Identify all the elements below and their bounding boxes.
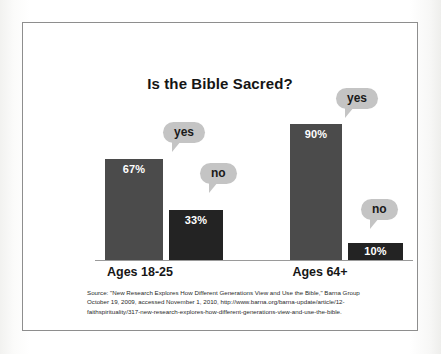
bubble-tail-icon: [370, 218, 379, 229]
bar-value-label: 90%: [290, 128, 342, 140]
bubble-tail-icon: [172, 141, 181, 152]
callout-bubble-yes-ages-64-plus: yes: [336, 88, 378, 109]
bar-ages-18-25-yes[interactable]: 67%: [105, 159, 163, 260]
category-label-ages-18-25: Ages 18-25: [81, 265, 199, 279]
bar-value-label: 10%: [348, 245, 403, 257]
source-line-2: October 19, 2009, accessed November 1, 2…: [87, 297, 407, 306]
callout-text: yes: [174, 125, 194, 139]
bubble-tail-icon: [209, 182, 218, 193]
bar-value-label: 67%: [105, 163, 163, 175]
callout-text: no: [372, 202, 387, 216]
source-line-1: Source: "New Research Explores How Diffe…: [87, 288, 407, 297]
bubble-tail-icon: [345, 107, 354, 118]
callout-bubble-yes-ages-18-25: yes: [163, 122, 205, 143]
x-axis-line: [95, 260, 413, 261]
source-line-3: faithspirituality/317-new-research-explo…: [87, 307, 407, 316]
callout-text: no: [211, 166, 226, 180]
slide-frame: Is the Bible Sacred? 67% 33% 90% 10% yes: [22, 22, 418, 331]
bar-value-label: 33%: [169, 214, 223, 226]
chart-plot-area: 67% 33% 90% 10% yes no: [83, 109, 413, 261]
bar-ages-18-25-no[interactable]: 33%: [169, 210, 223, 260]
source-citation: Source: "New Research Explores How Diffe…: [87, 288, 407, 316]
category-label-ages-64-plus: Ages 64+: [266, 265, 374, 279]
callout-text: yes: [347, 91, 367, 105]
callout-bubble-no-ages-18-25: no: [200, 163, 237, 184]
bar-ages-64-plus-yes[interactable]: 90%: [290, 124, 342, 260]
callout-bubble-no-ages-64-plus: no: [361, 199, 398, 220]
bar-ages-64-plus-no[interactable]: 10%: [348, 243, 403, 260]
slide-page: Is the Bible Sacred? 67% 33% 90% 10% yes: [0, 0, 441, 354]
